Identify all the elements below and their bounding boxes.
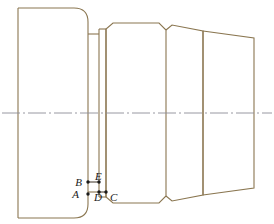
point-labels: A B C D E — [71, 170, 118, 203]
point-marker-C — [104, 190, 107, 193]
point-marker-A — [86, 192, 89, 195]
point-label-D: D — [93, 191, 102, 203]
point-label-A: A — [71, 188, 79, 200]
point-marker-B — [86, 180, 89, 183]
point-label-B: B — [75, 176, 82, 188]
point-label-C: C — [110, 191, 118, 203]
technical-drawing-svg: A B C D E — [0, 0, 274, 224]
drawing-canvas: A B C D E — [0, 0, 274, 224]
point-label-E: E — [94, 170, 102, 182]
